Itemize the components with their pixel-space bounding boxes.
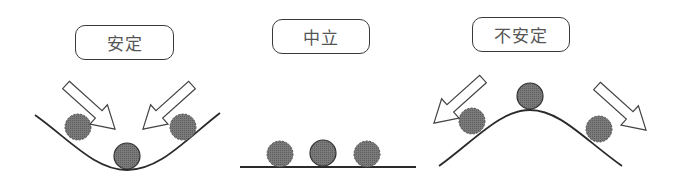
solid-ball: [517, 83, 543, 109]
dashed-ball-left: [459, 108, 485, 134]
neutral-label: 中立: [272, 19, 370, 54]
stable-panel: [35, 75, 220, 170]
dashed-ball-left: [267, 141, 293, 167]
neutral-panel: [240, 140, 416, 167]
dashed-ball-right: [354, 141, 380, 167]
stable-label: 安定: [75, 25, 174, 60]
unstable-label: 不安定: [472, 17, 570, 52]
solid-ball: [114, 143, 140, 169]
unstable-panel: [425, 69, 654, 166]
solid-ball: [310, 140, 336, 166]
dashed-ball-right: [586, 116, 612, 142]
dashed-ball-left: [65, 114, 91, 140]
dashed-ball-right: [170, 114, 196, 140]
